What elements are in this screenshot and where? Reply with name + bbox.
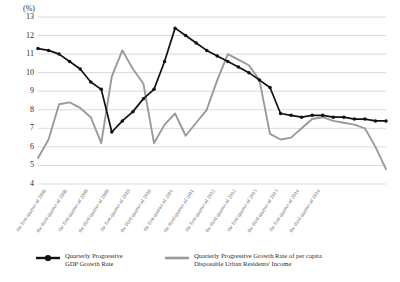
gray-line-marker-icon <box>165 254 189 262</box>
gridlines <box>38 17 386 184</box>
legend-label-income: Quarterly Progressive Growth Rate of per… <box>194 252 322 269</box>
legend-item-gdp: Quarterly Progressive GDP Growth Rate <box>36 252 123 269</box>
chart-container: (%) 13121110987654 the first quarter of … <box>0 0 400 282</box>
legend-label-gdp: Quarterly Progressive GDP Growth Rate <box>65 252 123 269</box>
chart-plot-area <box>0 0 400 282</box>
legend-item-income: Quarterly Progressive Growth Rate of per… <box>165 252 322 269</box>
black-line-marker-icon <box>36 254 60 262</box>
